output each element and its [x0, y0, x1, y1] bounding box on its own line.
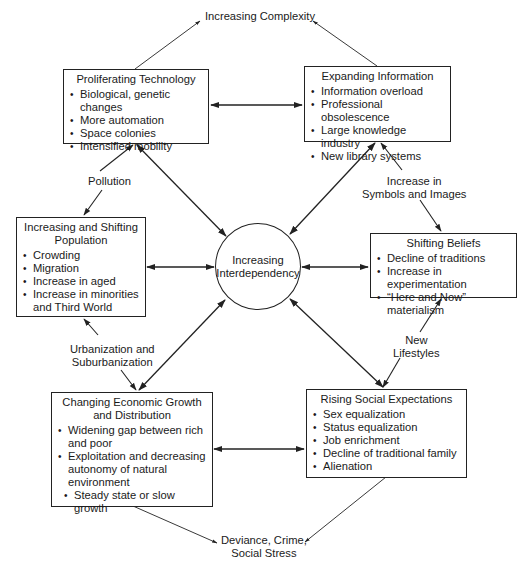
arrow-pollution-population	[84, 190, 102, 215]
list-item: Steady state or slow growth	[64, 489, 206, 515]
list-item: Exploitation and decreasing autonomy of …	[58, 450, 206, 489]
label-lifestyles-line-1: New	[393, 334, 440, 347]
list-item: Sex equalization	[313, 408, 460, 421]
label-urbanization-line-1: Urbanization and	[70, 343, 155, 356]
list-item: Intensified mobility	[70, 140, 202, 153]
arrow-social-to-deviance	[305, 477, 386, 542]
list-item: Biological, genetic changes	[70, 88, 202, 114]
label-increasing-complexity: Increasing Complexity	[205, 10, 315, 23]
list-item: Decline of traditions	[377, 252, 510, 265]
list-item: Migration	[23, 262, 139, 275]
box-title-line-2: and Distribution	[58, 409, 206, 422]
box-shifting-beliefs: Shifting Beliefs Decline of traditions I…	[370, 233, 517, 298]
box-title: Increasing and Shifting Population	[23, 221, 139, 247]
label-symbols-line-2: Symbols and Images	[362, 188, 466, 201]
list-item: More automation	[70, 114, 202, 127]
box-items: Widening gap between rich and poor Explo…	[58, 424, 206, 515]
arrow-urban-econ	[121, 370, 136, 390]
interdependency-diagram: Increasing Complexity Deviance, Crime, S…	[0, 0, 530, 566]
label-deviance-crime-stress: Deviance, Crime, Social Stress	[221, 534, 307, 560]
list-item: Job enrichment	[313, 434, 460, 447]
list-item: Alienation	[313, 460, 460, 473]
center-line-1: Increasing	[216, 254, 299, 267]
box-title: Expanding Information	[311, 70, 444, 83]
box-title: Proliferating Technology	[70, 73, 202, 86]
list-item: Increase in minorities and Third World	[23, 288, 139, 314]
box-title-line-1: Changing Economic Growth	[58, 396, 206, 409]
list-item: Increase in aged	[23, 275, 139, 288]
label-symbols-line-1: Increase in	[362, 175, 466, 188]
center-line-2: Interdependency	[216, 267, 299, 280]
box-items: Information overload Professional obsole…	[311, 85, 444, 163]
box-proliferating-technology: Proliferating Technology Biological, gen…	[63, 69, 209, 144]
box-title: Rising Social Expectations	[313, 393, 460, 406]
box-title-line-2: Population	[23, 234, 139, 247]
box-title: Shifting Beliefs	[377, 237, 510, 250]
list-item: Information overload	[311, 85, 444, 98]
arrow-tech-center	[137, 145, 226, 236]
label-symbols-images: Increase in Symbols and Images	[362, 175, 466, 201]
box-items: Biological, genetic changes More automat…	[70, 88, 202, 153]
list-item: Increase in experimentation	[377, 265, 510, 291]
arrow-lifestyles-social	[383, 358, 400, 387]
arrow-urban-population	[84, 319, 98, 335]
label-deviance-line-1: Deviance, Crime,	[221, 534, 307, 547]
list-item: Decline of traditional family	[313, 447, 460, 460]
list-item: New library systems	[311, 150, 444, 163]
box-items: Sex equalization Status equalization Job…	[313, 408, 460, 473]
arrow-symbols-beliefs	[420, 200, 441, 231]
label-new-lifestyles: New Lifestyles	[393, 334, 440, 360]
box-title: Changing Economic Growth and Distributio…	[58, 396, 206, 422]
list-item: Space colonies	[70, 127, 202, 140]
list-item: Professional obsolescence	[311, 98, 444, 124]
box-increasing-shifting-population: Increasing and Shifting Population Crowd…	[16, 217, 146, 317]
label-lifestyles-line-2: Lifestyles	[393, 347, 440, 360]
label-deviance-line-2: Social Stress	[221, 547, 307, 560]
label-urbanization-line-2: Suburbanization	[70, 356, 155, 369]
box-changing-economic-growth: Changing Economic Growth and Distributio…	[51, 392, 213, 507]
arrow-info-to-complexity	[313, 21, 377, 66]
list-item: Status equalization	[313, 421, 460, 434]
box-title-line-1: Increasing and Shifting	[23, 221, 139, 234]
arrow-tech-to-complexity	[135, 21, 200, 69]
label-urbanization: Urbanization and Suburbanization	[70, 343, 155, 369]
box-items: Decline of traditions Increase in experi…	[377, 252, 510, 317]
list-item: Crowding	[23, 249, 139, 262]
box-rising-social-expectations: Rising Social Expectations Sex equalizat…	[306, 389, 467, 478]
arrow-social-center	[290, 299, 383, 387]
box-expanding-information: Expanding Information Information overlo…	[304, 66, 451, 142]
list-item: “Here and Now” materialism	[377, 291, 510, 317]
label-pollution: Pollution	[88, 175, 131, 188]
center-increasing-interdependency: Increasing Interdependency	[215, 223, 301, 310]
list-item: Large knowledge industry	[311, 124, 444, 150]
box-items: Crowding Migration Increase in aged Incr…	[23, 249, 139, 314]
list-item: Widening gap between rich and poor	[58, 424, 206, 450]
